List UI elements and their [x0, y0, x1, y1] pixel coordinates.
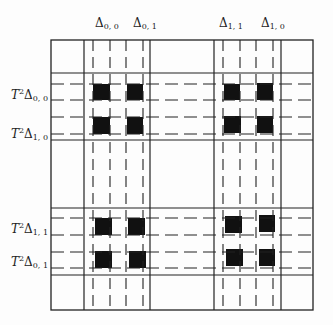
- black-square: [224, 116, 241, 133]
- black-squares-group: [93, 83, 275, 268]
- black-square: [127, 84, 143, 100]
- lattice-diagram: [0, 0, 333, 325]
- row-label-t2d01: T2Δ0, 1: [0, 255, 48, 270]
- black-square: [93, 117, 110, 134]
- black-square: [257, 83, 273, 100]
- column-label-d01: Δ0, 1: [133, 17, 157, 31]
- column-label-d10: Δ1, 0: [261, 17, 285, 31]
- column-label-d11: Δ1, 1: [219, 17, 243, 31]
- outer-frame: [51, 40, 313, 310]
- horizontal-lines-group: [51, 73, 313, 275]
- black-square: [224, 84, 240, 100]
- row-label-t2d11: T2Δ1, 1: [0, 222, 48, 237]
- row-label-t2d00: T2Δ0, 0: [0, 88, 48, 103]
- vertical-lines-group: [84, 40, 281, 310]
- black-square: [93, 84, 110, 100]
- black-square: [127, 117, 143, 134]
- row-label-t2d10: T2Δ1, 0: [0, 127, 48, 142]
- black-square: [257, 116, 273, 133]
- column-label-d00: Δ0, 0: [95, 17, 119, 31]
